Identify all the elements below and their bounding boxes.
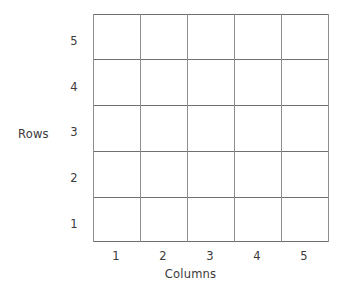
x-tick-label: 1	[101, 250, 131, 262]
grid-line-horizontal	[93, 14, 329, 15]
x-tick-label: 3	[195, 250, 225, 262]
grid-line-vertical	[281, 14, 282, 242]
x-tick-label: 4	[242, 250, 272, 262]
y-axis-tick-labels: 5 4 3 2 1	[61, 14, 85, 242]
grid-line-horizontal	[93, 197, 329, 198]
y-axis-title: Rows	[18, 127, 49, 141]
grid-line-vertical	[93, 14, 94, 242]
x-axis-tick-labels: 1 2 3 4 5	[93, 250, 329, 264]
grid-line-horizontal	[93, 59, 329, 60]
grid-line-vertical	[328, 14, 329, 242]
grid-line-vertical	[187, 14, 188, 242]
plot-area	[93, 14, 329, 242]
grid-line-horizontal	[93, 241, 329, 242]
grid-line-vertical	[140, 14, 141, 242]
x-tick-label: 5	[289, 250, 319, 262]
y-tick-label: 3	[63, 127, 85, 138]
grid-line-horizontal	[93, 105, 329, 106]
x-tick-label: 2	[148, 250, 178, 262]
grid-plot-figure: Rows 5 4 3 2 1 1 2 3 4 5 Columns	[0, 0, 341, 291]
grid-line-vertical	[234, 14, 235, 242]
y-tick-label: 4	[63, 82, 85, 93]
grid-line-horizontal	[93, 151, 329, 152]
y-tick-label: 2	[63, 173, 85, 184]
x-axis-title: Columns	[0, 267, 341, 281]
y-tick-label: 1	[63, 219, 85, 230]
y-tick-label: 5	[63, 36, 85, 47]
